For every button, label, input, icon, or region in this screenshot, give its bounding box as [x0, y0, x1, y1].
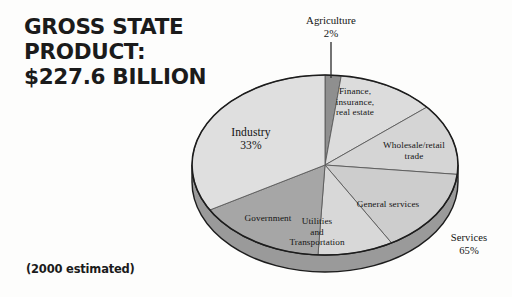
slice-label-general-services: General services: [340, 199, 436, 210]
slice-label-wholesale-retail-trade: Wholesale/retail trade: [368, 140, 460, 161]
slice-label-agriculture: Agriculture 2%: [277, 14, 385, 39]
slice-label-finance-insurance-real-estate: Finance, insurance, real estate: [317, 86, 393, 118]
slice-label-industry: Industry 33%: [205, 126, 297, 152]
chart-page: GROSS STATE PRODUCT: $227.6 BILLION (200…: [0, 0, 512, 297]
group-label-services: Services 65%: [432, 232, 506, 257]
slice-label-government: Government: [225, 213, 311, 224]
